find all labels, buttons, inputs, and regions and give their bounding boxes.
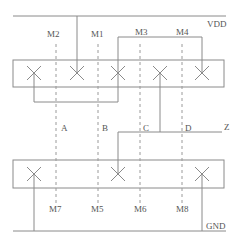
circuit-layout-diagram: VDD GND Z M2 M1 M3 M4 A B C D M7 M5 M6 M… <box>0 0 243 243</box>
diagram-graphics <box>0 0 243 243</box>
output-z-label: Z <box>224 123 230 132</box>
transistor-label-m5: M5 <box>91 205 104 214</box>
vdd-label: VDD <box>207 20 227 29</box>
top-bridge-wire <box>118 37 202 73</box>
input-label-a: A <box>61 124 68 133</box>
transistor-label-m4: M4 <box>176 28 189 37</box>
transistor-label-m8: M8 <box>176 205 189 214</box>
transistor-label-m6: M6 <box>134 205 147 214</box>
input-label-c: C <box>143 124 149 133</box>
transistor-label-m3: M3 <box>135 28 148 37</box>
output-z-wire <box>118 132 222 174</box>
transistor-label-m7: M7 <box>49 205 62 214</box>
gnd-label: GND <box>206 222 226 231</box>
input-label-d: D <box>185 124 192 133</box>
transistor-label-m1: M1 <box>91 30 104 39</box>
transistor-label-m2: M2 <box>47 30 60 39</box>
input-label-b: B <box>102 124 108 133</box>
